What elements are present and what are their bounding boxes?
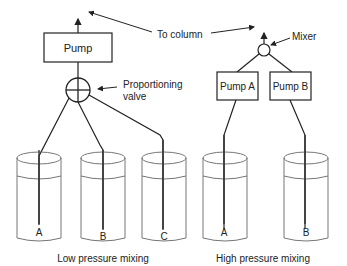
pump-a-label: Pump A — [220, 81, 255, 92]
valve-pointer-arrow — [98, 87, 117, 89]
reservoir-low-c-label: C — [160, 231, 167, 242]
high-pressure-system: Mixer Pump A Pump B — [217, 31, 317, 229]
high-pressure-caption: High pressure mixing — [216, 253, 310, 264]
hplc-mixing-diagram: Pump Proportioning valve A B C Low pr — [0, 0, 347, 266]
reservoir-low-c — [142, 152, 186, 241]
pump-label: Pump — [64, 42, 93, 54]
low-pressure-caption: Low pressure mixing — [57, 253, 149, 264]
tube-high-b — [290, 100, 305, 229]
mixer-icon — [258, 44, 270, 56]
reservoir-high-b-label: B — [303, 227, 310, 238]
tube-b — [78, 102, 103, 230]
to-column-arrow-left — [89, 12, 152, 32]
reservoir-low-a-label: A — [36, 227, 43, 238]
to-column-label: To column — [157, 29, 203, 40]
to-column-arrow-right — [211, 27, 254, 33]
tube-c — [89, 95, 163, 230]
valve-label-line1: Proportioning — [123, 79, 182, 90]
mixer-pump-a-line — [237, 54, 259, 72]
tube-high-a — [224, 100, 236, 229]
reservoir-high-a-label: A — [221, 227, 228, 238]
pump-b-label: Pump B — [273, 81, 309, 92]
mixer-pointer-arrow — [271, 38, 290, 45]
valve-label-line2: valve — [123, 91, 147, 102]
reservoir-low-b-label: B — [100, 231, 107, 242]
mixer-label: Mixer — [292, 31, 317, 42]
tube-a — [39, 98, 69, 225]
low-pressure-system: Pump Proportioning valve — [39, 19, 182, 230]
mixer-pump-b-line — [269, 54, 292, 72]
